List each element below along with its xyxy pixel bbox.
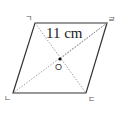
center-point	[58, 57, 61, 60]
vertex-label-bottom-right: ㄷ	[88, 95, 95, 104]
vertex-label-top-left: ㄱ	[25, 14, 32, 23]
side-length-label: 11 cm	[46, 25, 83, 41]
vertex-label-bottom-left: ㄴ	[4, 94, 11, 103]
rhombus-diagram: ㄱ ㄹ ㄴ ㄷ O 11 cm	[0, 0, 123, 130]
center-label: O	[55, 62, 62, 72]
vertex-label-top-right: ㄹ	[108, 15, 115, 24]
